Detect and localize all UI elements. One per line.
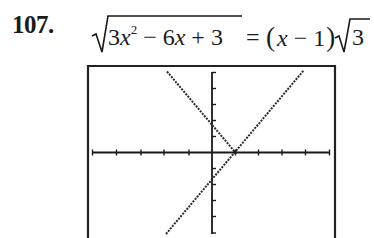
curve-y1-left-branch — [167, 72, 235, 153]
calculator-graph — [0, 0, 374, 238]
intersection-point — [233, 151, 237, 155]
